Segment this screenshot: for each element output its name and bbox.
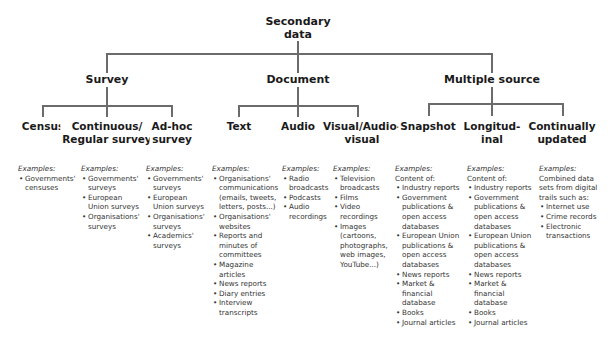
list-item: Images (cartoons, photographs, web image… [333,222,389,270]
list-item: Interview transcripts [212,298,278,317]
examples-list: Organisations' communications (emails, t… [212,174,278,318]
connector-root-down [297,40,299,54]
list-item: Governments' surveys [146,174,206,193]
node-visual-audiovisual: Visual/Audio- visual [321,120,403,146]
examples-list: Television broadcasts Films Video record… [333,174,389,270]
node-audio: Audio [279,120,317,133]
list-item: Magazine articles [212,260,278,279]
examples-audio: Examples: Radio broadcasts Podcasts Audi… [282,164,332,222]
node-longitudinal: Longitud- inal [462,120,523,146]
examples-list: Governments' censuses [18,174,78,193]
examples-list: Radio broadcasts Podcasts Audio recordin… [282,174,332,222]
connector-document-up [297,53,299,75]
list-item: Organisations' communications (emails, t… [212,174,278,212]
connector-continuous [106,105,108,117]
list-item: Academics' surveys [146,231,206,250]
list-item: European Union publications & open acces… [467,231,537,269]
list-item: Journal articles [467,318,537,328]
list-item: Books [467,308,537,318]
list-item: Audio recordings [282,202,332,221]
node-document: Document [264,73,331,86]
node-continuous-regular-survey: Continuous/ Regular survey [60,120,153,146]
list-item: Electronic transactions [539,222,603,241]
examples-adhoc: Examples: Governments' surveys European … [146,164,206,250]
list-item: Governments' surveys [81,174,141,193]
list-item: Radio broadcasts [282,174,332,193]
list-item: Journal articles [395,318,465,328]
list-item: Reports and minutes of committees [212,231,278,260]
node-adhoc-survey: Ad-hoc survey [150,120,195,146]
examples-list: Industry reports Government publications… [395,183,465,327]
connector-visual [357,105,359,117]
list-item: Podcasts [282,193,332,203]
examples-list: Industry reports Government publications… [467,183,537,327]
list-item: Organisations' surveys [81,212,141,231]
root-label-line1: Secondary [265,15,330,28]
list-item: Market & financial database [395,279,465,308]
connector-snapshot [428,103,430,116]
connector-survey-up [106,53,108,75]
list-item: Market & financial database [467,279,537,308]
connector-text [238,105,240,117]
list-item: Industry reports [395,183,465,193]
list-item: News reports [212,279,278,289]
examples-list: Governments' surveys European Union surv… [81,174,141,232]
connector-survey-down [106,87,108,106]
list-item: Governments' censuses [18,174,78,193]
examples-list: Internet use Crime records Electronic tr… [539,202,603,240]
list-item: Government publications & open access da… [395,193,465,231]
list-item: Diary entries [212,289,278,299]
connector-multiple-children [428,103,564,105]
examples-visual: Examples: Television broadcasts Films Vi… [333,164,389,270]
examples-longitudinal: Examples: Content of: Industry reports G… [467,164,537,327]
node-continually-updated: Continually updated [526,120,597,146]
connector-level1-right [297,53,493,55]
list-item: Organisations' websites [212,212,278,231]
node-census: Census [20,120,66,133]
connector-longitudinal [491,103,493,116]
connector-document-down [297,87,299,106]
list-item: Government publications & open access da… [467,193,537,231]
list-item: News reports [467,270,537,280]
connector-census [42,105,44,117]
list-item: Films [333,193,389,203]
node-text: Text [225,120,254,133]
list-item: Crime records [539,212,603,222]
examples-snapshot: Examples: Content of: Industry reports G… [395,164,465,327]
examples-continually-updated: Examples: Combined data sets from digita… [539,164,603,241]
list-item: Television broadcasts [333,174,389,193]
examples-list: Governments' surveys European Union surv… [146,174,206,251]
list-item: European Union surveys [146,193,206,212]
connector-continually [562,103,564,116]
list-item: News reports [395,270,465,280]
examples-continuous: Examples: Governments' surveys European … [81,164,141,231]
list-item: Video recordings [333,202,389,221]
list-item: European Union publications & open acces… [395,231,465,269]
node-multiple-source: Multiple source [442,73,542,86]
list-item: Organisations' surveys [146,212,206,231]
connector-multiple-up [491,53,493,75]
list-item: Books [395,308,465,318]
examples-census: Examples: Governments' censuses [18,164,78,193]
root-node: Secondary data [263,15,332,41]
node-snapshot: Snapshot [398,120,458,133]
root-label-line2: data [265,28,330,41]
connector-audio [297,105,299,117]
list-item: Internet use [539,202,603,212]
examples-text: Examples: Organisations' communications … [212,164,278,318]
connector-adhoc [171,105,173,117]
node-survey: Survey [84,73,131,86]
list-item: Industry reports [467,183,537,193]
list-item: European Union surveys [81,193,141,212]
